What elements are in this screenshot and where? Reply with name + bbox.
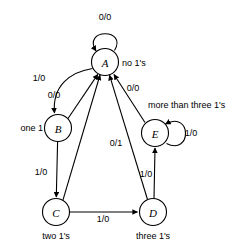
edge-b-to-a: 0/0 (48, 74, 98, 118)
state-node-c[interactable]: C (43, 199, 70, 226)
state-node-d[interactable]: D (140, 199, 167, 226)
edge-label-d-to-a: 0/1 (110, 138, 123, 148)
state-description-c: two 1's (42, 231, 70, 241)
state-description-e: more than three 1's (148, 100, 226, 110)
state-label-a: A (101, 57, 109, 69)
state-machine-svg: 0/0 1/0 0/0 1/0 1/0 0/1 (0, 0, 246, 252)
edge-b-to-c: 1/0 (35, 142, 58, 198)
edge-a-to-a: 0/0 (93, 12, 117, 51)
state-label-d: D (148, 207, 157, 219)
edge-label-e-to-e: 1/0 (185, 128, 198, 138)
state-node-a[interactable]: A (92, 49, 119, 76)
edge-c-to-a (63, 75, 100, 200)
state-description-b: one 1 (20, 123, 43, 133)
state-description-a: no 1's (122, 58, 146, 68)
edge-a-to-b: 1/0 (33, 69, 93, 114)
edge-e-to-e: 1/0 (166, 121, 198, 145)
state-node-e[interactable]: E (142, 120, 169, 147)
edge-label-a-to-a: 0/0 (99, 12, 112, 22)
edge-e-to-a: 0/0 (114, 75, 145, 123)
edge-label-e-to-a: 0/0 (127, 83, 140, 93)
edge-d-to-e: 1/0 (140, 148, 155, 199)
edge-label-b-to-c: 1/0 (35, 167, 48, 177)
edge-c-to-d: 1/0 (70, 212, 138, 224)
state-label-e: E (151, 128, 159, 140)
state-node-b[interactable]: B (45, 115, 72, 142)
state-label-c: C (52, 207, 60, 219)
edge-label-d-to-e: 1/0 (140, 169, 153, 179)
state-label-b: B (55, 123, 62, 135)
edge-label-c-to-d: 1/0 (97, 214, 110, 224)
edge-label-a-to-b: 1/0 (33, 73, 46, 83)
state-diagram-canvas: 0/0 1/0 0/0 1/0 1/0 0/1 (0, 0, 246, 252)
edge-label-b-to-a: 0/0 (48, 90, 61, 100)
state-description-d: three 1's (136, 231, 171, 241)
